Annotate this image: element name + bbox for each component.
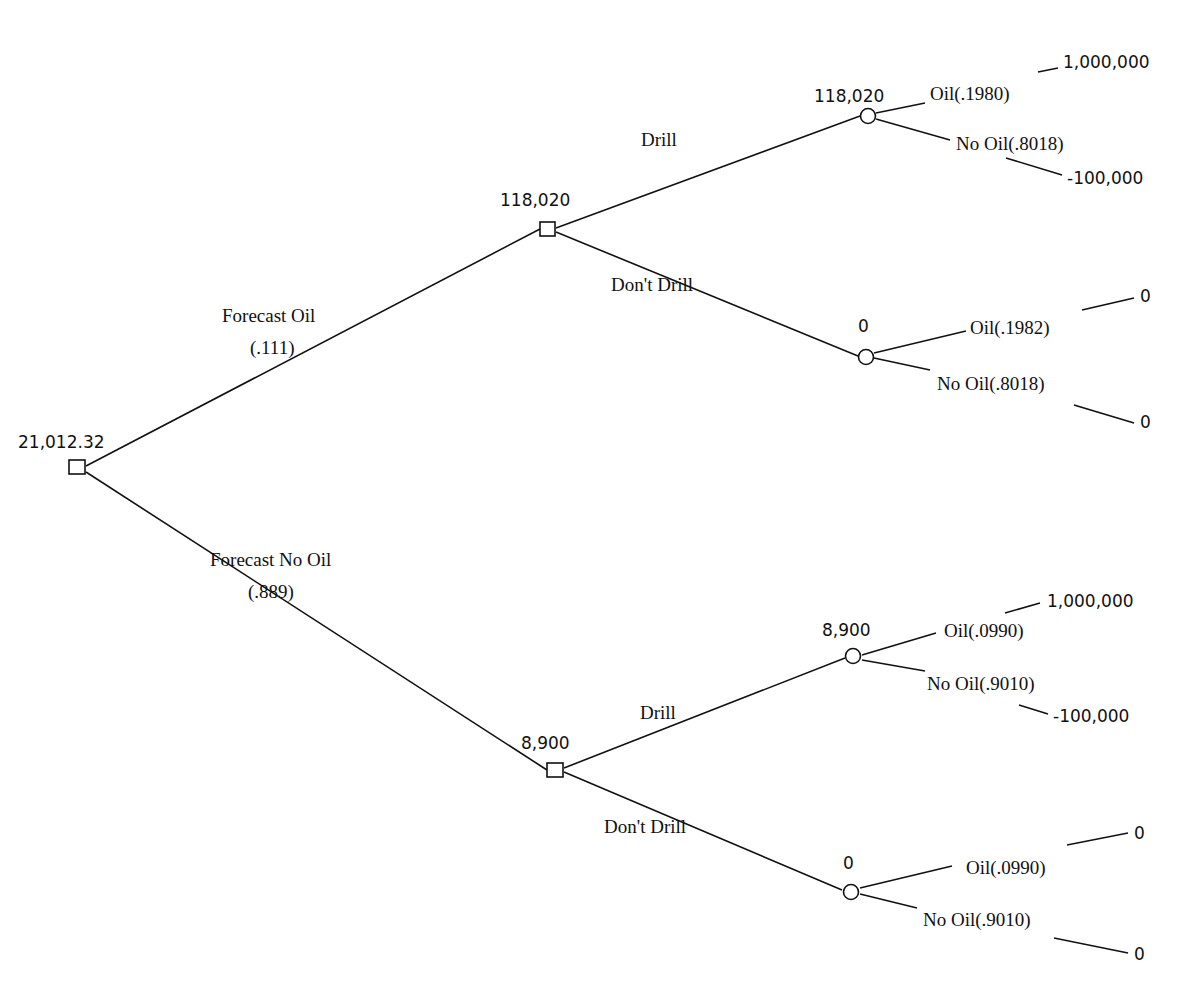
branch-forecast-no-oil-line [86,472,547,770]
decision-tree-diagram: 21,012.32 118,020 8,900 118,020 0 8,900 … [0,0,1178,983]
outcome-line [862,660,925,671]
payoff-value: -100,000 [1053,706,1129,726]
chance-node-c4 [844,885,859,900]
payoff-value: 1,000,000 [1063,52,1150,72]
node-value-label: 8,900 [822,620,871,640]
node-value-label: 118,020 [814,86,884,106]
node-value-label: 8,900 [521,733,570,753]
branch-d1-drill-line [556,116,860,228]
outcome-label: No Oil(.9010) [927,673,1035,695]
outcome-label: Oil(.0990) [944,620,1024,642]
outcome-label: No Oil(.9010) [923,909,1031,931]
outcome-line [862,633,936,655]
payoff-line [1006,158,1062,175]
outcome-line [874,331,966,353]
branch-d2-drill-line [564,658,845,768]
branch-label-dont-drill: Don't Drill [611,274,693,295]
decision-node-root [69,460,85,474]
chance-node-c3 [846,649,861,664]
payoff-value: -100,000 [1067,168,1143,188]
outcome-label: Oil(.1980) [930,83,1010,105]
node-value-label: 0 [858,316,869,336]
branch-label-forecast-no-oil: Forecast No Oil [210,549,331,570]
outcome-line [860,866,952,888]
decision-node-forecast-no-oil [547,763,563,777]
decision-node-forecast-oil [540,222,555,236]
outcome-label: Oil(.0990) [966,857,1046,879]
outcome-line [874,358,930,370]
branch-label-dont-drill: Don't Drill [604,816,686,837]
chance-node-c1 [861,109,876,124]
payoff-line [1019,705,1048,714]
payoff-line [1082,298,1134,310]
branch-prob-forecast-oil: (.111) [250,337,295,359]
payoff-line [1038,68,1058,72]
outcome-line [860,894,917,908]
payoff-value: 0 [1140,412,1151,432]
branch-label-drill: Drill [641,129,677,150]
branch-d1-dont-drill-line [556,232,858,356]
payoff-value: 0 [1140,286,1151,306]
node-value-label: 0 [843,853,854,873]
branch-prob-forecast-no-oil: (.889) [248,581,294,603]
outcome-label: Oil(.1982) [970,317,1050,339]
node-value-label: 118,020 [500,190,570,210]
outcome-label: No Oil(.8018) [956,133,1064,155]
branch-forecast-oil-line [86,229,540,466]
branch-label-drill: Drill [640,702,676,723]
branch-label-forecast-oil: Forecast Oil [222,305,315,326]
payoff-value: 0 [1134,823,1145,843]
payoff-line [1067,833,1128,845]
outcome-label: No Oil(.8018) [937,373,1045,395]
payoff-value: 0 [1134,944,1145,964]
payoff-line [1005,603,1040,613]
payoff-line [1074,405,1134,423]
outcome-line [876,119,950,140]
root-value-label: 21,012.32 [18,432,105,452]
payoff-line [1054,938,1128,953]
chance-node-c2 [859,350,874,365]
payoff-value: 1,000,000 [1047,591,1134,611]
